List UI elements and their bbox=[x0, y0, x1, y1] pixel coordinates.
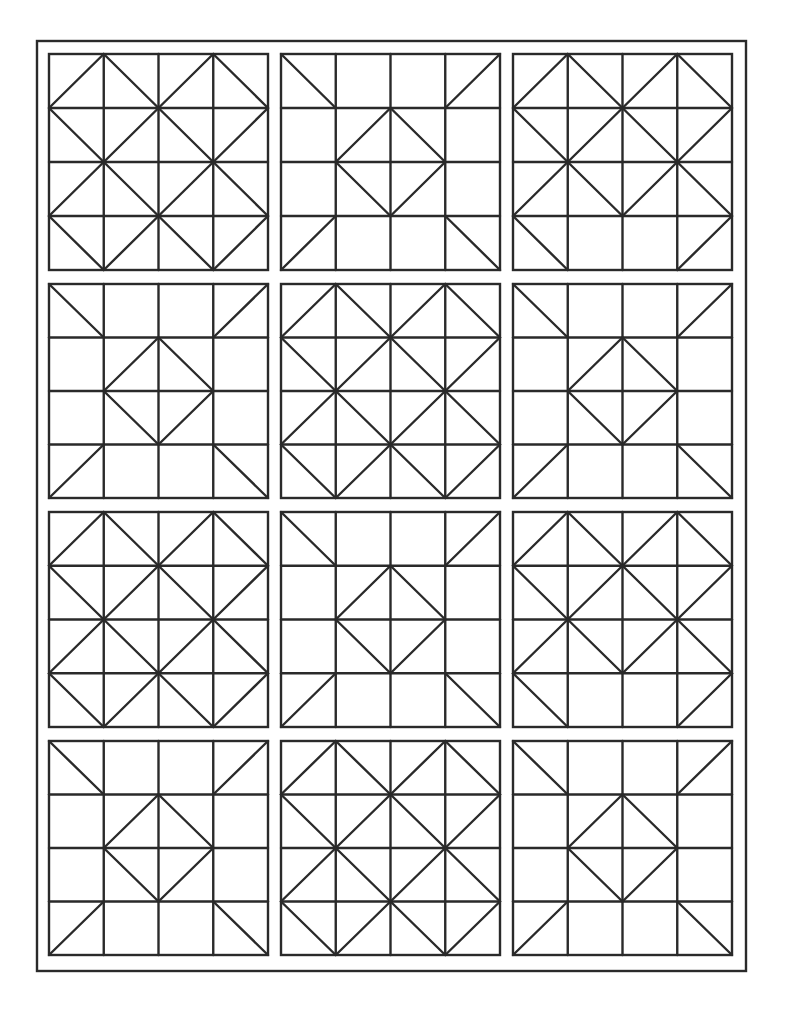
block-line bbox=[104, 391, 159, 445]
block-line bbox=[623, 566, 678, 620]
block-line bbox=[213, 54, 268, 108]
block-line bbox=[677, 445, 732, 499]
block-line bbox=[623, 795, 678, 849]
block-line bbox=[213, 512, 268, 566]
block-line bbox=[677, 54, 732, 108]
block-line bbox=[281, 284, 336, 338]
block-line bbox=[159, 512, 214, 566]
block-line bbox=[445, 741, 500, 795]
block-line bbox=[391, 284, 446, 338]
block-line bbox=[49, 108, 104, 162]
block-line bbox=[213, 284, 268, 338]
block-line bbox=[104, 216, 159, 270]
block-line bbox=[213, 741, 268, 795]
block-line bbox=[49, 566, 104, 620]
block-line bbox=[677, 284, 732, 338]
block-line bbox=[49, 54, 104, 108]
block-line bbox=[513, 673, 568, 727]
block-line bbox=[445, 216, 500, 270]
block-line bbox=[568, 620, 623, 674]
big-diamond-block bbox=[281, 284, 500, 498]
block-line bbox=[677, 512, 732, 566]
block-line bbox=[623, 391, 678, 445]
block-line bbox=[104, 338, 159, 392]
block-line bbox=[445, 673, 500, 727]
block-line bbox=[391, 741, 446, 795]
block-line bbox=[49, 216, 104, 270]
big-diamond-block bbox=[49, 512, 268, 727]
block-line bbox=[391, 162, 446, 216]
block-line bbox=[623, 512, 678, 566]
block-line bbox=[445, 848, 500, 902]
block-line bbox=[677, 673, 732, 727]
block-line bbox=[336, 741, 391, 795]
block-line bbox=[213, 673, 268, 727]
block-line bbox=[391, 445, 446, 499]
block-line bbox=[513, 512, 568, 566]
block-line bbox=[623, 620, 678, 674]
block-line bbox=[445, 284, 500, 338]
block-line bbox=[159, 162, 214, 216]
block-line bbox=[281, 338, 336, 392]
block-line bbox=[623, 848, 678, 902]
block-line bbox=[49, 902, 104, 956]
block-line bbox=[445, 338, 500, 392]
block-line bbox=[568, 848, 623, 902]
block-line bbox=[281, 848, 336, 902]
block-line bbox=[49, 445, 104, 499]
block-line bbox=[159, 620, 214, 674]
block-line bbox=[159, 108, 214, 162]
block-line bbox=[677, 108, 732, 162]
block-line bbox=[281, 54, 336, 108]
quilt-sheet bbox=[0, 0, 786, 1017]
block-line bbox=[391, 338, 446, 392]
block-line bbox=[623, 162, 678, 216]
block-line bbox=[281, 445, 336, 499]
big-diamond-block bbox=[281, 741, 500, 955]
block-line bbox=[568, 162, 623, 216]
block-line bbox=[445, 902, 500, 956]
block-line bbox=[213, 445, 268, 499]
block-line bbox=[104, 848, 159, 902]
block-line bbox=[336, 391, 391, 445]
block-line bbox=[213, 216, 268, 270]
small-diamond-block bbox=[281, 512, 500, 727]
block-line bbox=[281, 512, 336, 566]
block-line bbox=[623, 108, 678, 162]
small-diamond-block bbox=[49, 284, 268, 498]
block-line bbox=[513, 620, 568, 674]
block-line bbox=[568, 512, 623, 566]
block-line bbox=[568, 566, 623, 620]
block-line bbox=[49, 673, 104, 727]
block-line bbox=[159, 673, 214, 727]
block-line bbox=[49, 741, 104, 795]
small-diamond-block bbox=[513, 284, 732, 498]
block-line bbox=[104, 673, 159, 727]
block-line bbox=[445, 445, 500, 499]
block-line bbox=[391, 391, 446, 445]
big-diamond-open-bottom-block bbox=[513, 512, 732, 727]
block-line bbox=[336, 284, 391, 338]
block-line bbox=[213, 566, 268, 620]
block-line bbox=[104, 620, 159, 674]
block-line bbox=[445, 391, 500, 445]
block-line bbox=[568, 795, 623, 849]
block-line bbox=[513, 54, 568, 108]
block-line bbox=[568, 391, 623, 445]
small-diamond-block bbox=[49, 741, 268, 955]
block-line bbox=[391, 108, 446, 162]
block-line bbox=[213, 162, 268, 216]
block-line bbox=[336, 338, 391, 392]
block-line bbox=[213, 108, 268, 162]
block-line bbox=[336, 795, 391, 849]
block-line bbox=[513, 566, 568, 620]
block-line bbox=[281, 673, 336, 727]
block-line bbox=[445, 795, 500, 849]
block-line bbox=[568, 54, 623, 108]
block-line bbox=[568, 108, 623, 162]
block-line bbox=[281, 391, 336, 445]
block-line bbox=[445, 54, 500, 108]
block-line bbox=[104, 54, 159, 108]
block-line bbox=[336, 620, 391, 674]
block-line bbox=[677, 902, 732, 956]
